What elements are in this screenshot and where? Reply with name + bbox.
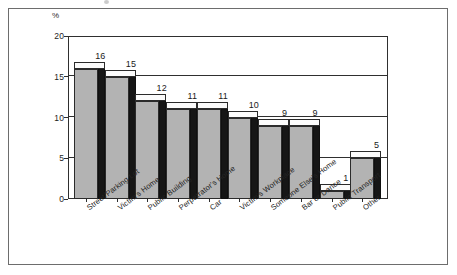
- bar-top-face-6: [258, 119, 289, 126]
- bar-top-face-5: [228, 111, 259, 118]
- x-axis-category-labels: Street/Parking LotVictim's HomePublic Bu…: [68, 199, 398, 273]
- x-tick-mark-1: [117, 199, 118, 202]
- bar-value-label-4: 11: [208, 91, 239, 101]
- chart-figure: % 05101520 1615121111109915 Street/Parki…: [0, 0, 457, 275]
- x-category-label-4: Car: [208, 197, 224, 212]
- bar-top-face-3: [166, 102, 197, 109]
- bar-top-face-1: [105, 70, 136, 77]
- bar-front-face-0: [74, 69, 98, 199]
- x-tick-mark-2: [147, 199, 148, 202]
- y-axis-unit-label: %: [52, 11, 59, 20]
- x-tick-mark-0: [86, 199, 87, 202]
- bar-value-label-5: 10: [238, 100, 269, 110]
- x-tick-mark-3: [178, 199, 179, 202]
- x-tick-mark-8: [332, 199, 333, 202]
- x-tick-mark-7: [301, 199, 302, 202]
- x-tick-mark-6: [270, 199, 271, 202]
- bar-0: [74, 62, 105, 199]
- bar-front-face-5: [228, 118, 252, 200]
- y-tick-label-0: 0: [42, 194, 64, 204]
- bar-top-face-7: [289, 119, 320, 126]
- bar-value-label-6: 9: [269, 108, 300, 118]
- bar-value-label-2: 12: [146, 83, 177, 93]
- scan-artifact-speck: [104, 0, 109, 4]
- y-axis-tick-labels: 05101520: [40, 36, 64, 199]
- bar-value-label-0: 16: [85, 51, 116, 61]
- bar-value-label-1: 15: [115, 59, 146, 69]
- x-tick-mark-9: [362, 199, 363, 202]
- bar-top-face-9: [350, 151, 381, 158]
- y-tick-label-5: 5: [42, 153, 64, 163]
- x-tick-mark-4: [209, 199, 210, 202]
- bar-5: [228, 111, 259, 200]
- y-tick-label-20: 20: [42, 31, 64, 41]
- bar-top-face-0: [74, 62, 105, 69]
- y-tick-label-15: 15: [42, 72, 64, 82]
- bar-top-face-2: [135, 94, 166, 101]
- y-tick-label-10: 10: [42, 113, 64, 123]
- bar-value-label-7: 9: [300, 108, 331, 118]
- bar-value-label-9: 5: [361, 140, 392, 150]
- bar-value-label-3: 11: [177, 91, 208, 101]
- bar-top-face-4: [197, 102, 228, 109]
